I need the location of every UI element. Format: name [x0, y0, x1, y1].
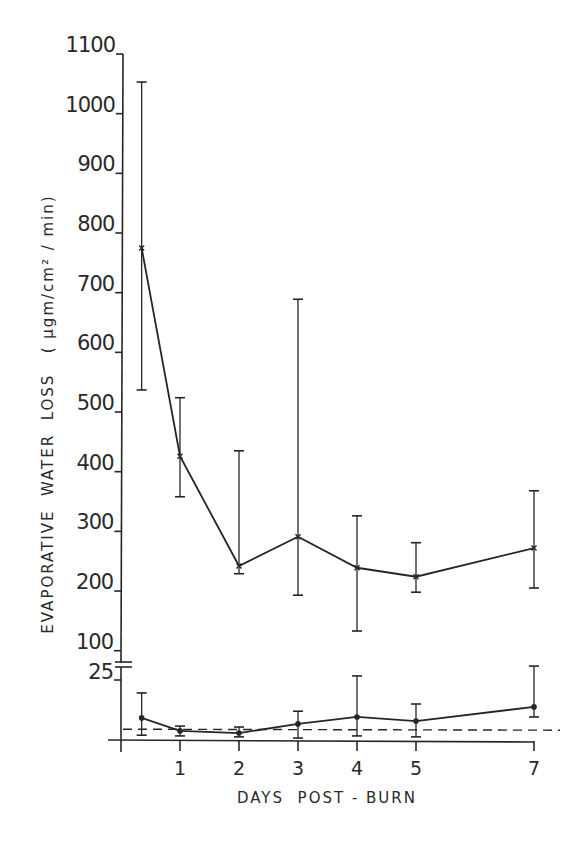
x-tick-label: 5 [410, 757, 422, 779]
series-line [142, 248, 534, 577]
x-axis-title: DAYS POST - BURN [237, 789, 417, 807]
reference-lines [123, 729, 560, 730]
y-tick-label: 25 [88, 660, 113, 684]
series-control [137, 666, 539, 738]
axes: 1002003004005006007008009001000110025123… [65, 33, 540, 779]
y-tick-label: 100 [76, 630, 113, 654]
dot-marker-icon [139, 715, 145, 721]
series-burned [137, 82, 539, 631]
y-tick-label: 800 [77, 212, 114, 236]
x-tick-label: 2 [233, 757, 245, 779]
y-tick-label: 200 [76, 570, 113, 594]
x-axis [108, 740, 534, 742]
dot-marker-icon [413, 718, 419, 724]
x-tick-label: 7 [528, 757, 540, 779]
evaporative-water-loss-chart: 1002003004005006007008009001000110025123… [0, 0, 583, 842]
y-tick-label: 400 [77, 451, 114, 475]
y-axis-title: EVAPORATIVE WATER LOSS ( µgm/cm² / min) [39, 194, 57, 633]
dot-marker-icon [295, 721, 301, 727]
dot-marker-icon [236, 730, 242, 736]
x-tick-label: 4 [351, 757, 363, 779]
y-tick-label: 700 [77, 272, 114, 296]
y-tick-label: 300 [76, 510, 113, 534]
dot-marker-icon [354, 714, 360, 720]
dot-marker-icon [531, 704, 537, 710]
x-tick-label: 1 [174, 757, 186, 779]
x-tick-label: 3 [292, 757, 304, 779]
y-axis-upper [121, 54, 123, 663]
dot-marker-icon [177, 728, 183, 734]
y-tick-label: 500 [77, 391, 114, 415]
y-tick-label: 900 [78, 152, 115, 176]
dashed-reference-line [123, 729, 560, 730]
y-tick-label: 600 [77, 331, 114, 355]
y-tick-label: 1000 [65, 93, 114, 117]
y-tick-label: 1100 [66, 33, 115, 57]
data-series [137, 82, 539, 738]
